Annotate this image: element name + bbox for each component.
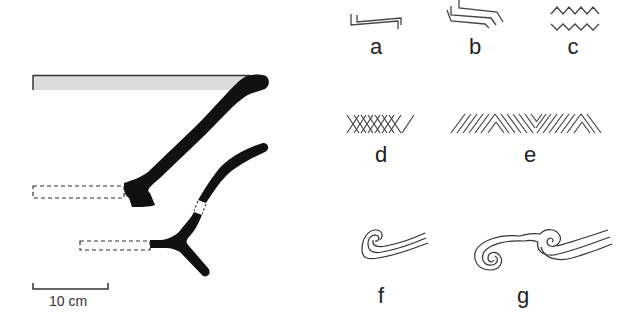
motif-label-c: c bbox=[558, 36, 588, 58]
motif-b-stepped-triple bbox=[447, 0, 503, 28]
motif-label-g: g bbox=[508, 285, 538, 307]
scale-bar bbox=[33, 283, 108, 289]
scale-bar-label: 10 cm bbox=[49, 294, 87, 308]
motif-label-a: a bbox=[361, 36, 391, 58]
reconstructed-base-outline-lower bbox=[80, 241, 150, 250]
motif-label-f: f bbox=[366, 285, 396, 307]
reconstructed-base-outline bbox=[33, 186, 124, 198]
vessel-wall-upper-piece bbox=[198, 143, 268, 203]
motif-label-d: d bbox=[366, 144, 396, 166]
scale-bar-line bbox=[33, 283, 108, 289]
vessel-wall-section bbox=[124, 75, 269, 208]
motif-f-spiral bbox=[362, 230, 428, 259]
motif-d-cross-hatch bbox=[347, 115, 414, 133]
motif-label-b: b bbox=[460, 36, 490, 58]
motif-g-double-spiral bbox=[475, 230, 612, 270]
vessel-profile-upper bbox=[33, 75, 269, 208]
motif-c-zigzag bbox=[551, 7, 599, 30]
motif-a-stepped-double bbox=[351, 14, 401, 29]
motif-label-e: e bbox=[515, 144, 545, 166]
motif-e-herringbone bbox=[451, 114, 601, 133]
rim-band bbox=[33, 76, 248, 90]
vessel-wall-lower-piece-with-foot bbox=[150, 212, 210, 276]
joint-gap-outline bbox=[194, 201, 206, 214]
